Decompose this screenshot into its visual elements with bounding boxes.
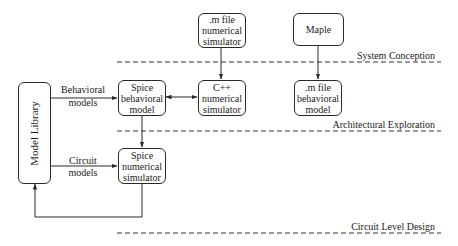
- node-line: behavioral: [121, 93, 163, 104]
- circuit-models-label: Circuit models: [58, 155, 108, 178]
- edge-feedback-to-library: [35, 183, 142, 217]
- node-line: .m file: [305, 82, 331, 93]
- node-line: numerical: [122, 161, 162, 172]
- model-library-box: Model Library: [18, 82, 51, 184]
- maple-box: Maple: [293, 13, 344, 46]
- behavioral-models-label: Behavioral models: [58, 84, 108, 108]
- phase-label-system-conception: System Conception: [357, 50, 435, 61]
- mfile-behavioral-model-box: .m file behavioral model: [294, 80, 342, 116]
- node-line: model: [130, 104, 155, 115]
- maple-label: Maple: [306, 24, 332, 35]
- node-line: C++: [213, 82, 231, 93]
- spice-behavioral-model-box: Spice behavioral model: [118, 80, 166, 116]
- node-line: behavioral: [297, 93, 339, 104]
- label-line: models: [58, 97, 108, 108]
- node-line: Spice: [131, 150, 153, 161]
- node-line: Spice: [131, 82, 153, 93]
- node-line: numerical: [202, 25, 242, 36]
- node-line: simulator: [203, 104, 241, 115]
- spice-numerical-simulator-box: Spice numerical simulator: [118, 148, 166, 184]
- node-line: .m file: [209, 14, 235, 25]
- cpp-numerical-simulator-box: C++ numerical simulator: [198, 80, 246, 116]
- node-line: simulator: [123, 172, 161, 183]
- label-line: Behavioral: [58, 84, 108, 95]
- model-library-label: Model Library: [29, 101, 40, 165]
- mfile-numerical-simulator-box: .m file numerical simulator: [198, 13, 246, 48]
- phase-label-circuit-level-design: Circuit Level Design: [351, 221, 435, 232]
- label-line: Circuit: [58, 155, 108, 166]
- label-line: models: [58, 167, 108, 178]
- node-line: numerical: [202, 93, 242, 104]
- phase-label-architectural-exploration: Architectural Exploration: [333, 119, 435, 130]
- node-line: model: [306, 104, 331, 115]
- node-line: simulator: [203, 36, 241, 47]
